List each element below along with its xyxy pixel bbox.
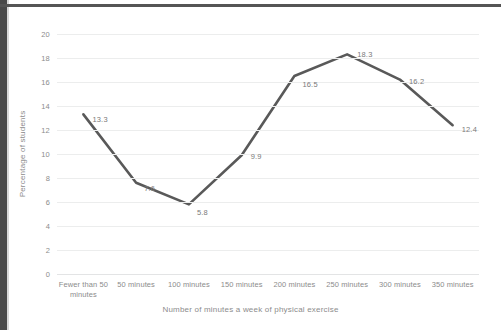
y-axis-tick-label: 6 bbox=[46, 198, 50, 207]
x-axis-tick-label: 250 minutes bbox=[318, 280, 376, 290]
gridline bbox=[57, 130, 479, 131]
gridline bbox=[57, 178, 479, 179]
chart-screenshot: Percentage of students 02468101214161820… bbox=[0, 0, 501, 330]
data-point-label: 18.3 bbox=[357, 50, 372, 59]
x-axis-tick-label: 200 minutes bbox=[265, 280, 323, 290]
y-axis-tick-label: 16 bbox=[41, 78, 50, 87]
x-axis-tick-label: 100 minutes bbox=[160, 280, 218, 290]
gridline bbox=[57, 202, 479, 203]
y-axis-tick-label: 4 bbox=[46, 222, 50, 231]
gridline bbox=[57, 154, 479, 155]
data-point-label: 9.9 bbox=[251, 152, 262, 161]
x-axis-tick-label: Fewer than 50 minutes bbox=[54, 280, 112, 300]
x-axis-tick-label: 150 minutes bbox=[213, 280, 271, 290]
line-chart: Percentage of students 02468101214161820… bbox=[0, 7, 501, 330]
y-axis-tick-label: 2 bbox=[46, 246, 50, 255]
gridline bbox=[57, 34, 479, 35]
y-axis-tick-label: 12 bbox=[41, 126, 50, 135]
y-axis-tick-label: 8 bbox=[46, 174, 50, 183]
y-axis-tick-label: 20 bbox=[41, 30, 50, 39]
data-point-label: 7.6 bbox=[144, 184, 155, 193]
y-axis-tick-label: 18 bbox=[41, 54, 50, 63]
gridline bbox=[57, 58, 479, 59]
y-axis-tick-label: 0 bbox=[46, 270, 50, 279]
x-axis-tick-label: 50 minutes bbox=[107, 280, 165, 290]
data-point-label: 5.8 bbox=[197, 208, 208, 217]
y-axis-tick-label: 10 bbox=[41, 150, 50, 159]
data-point-label: 12.4 bbox=[462, 125, 477, 134]
x-axis-tick-label: 350 minutes bbox=[424, 280, 482, 290]
gridline bbox=[57, 226, 479, 227]
gridline bbox=[57, 106, 479, 107]
gridline bbox=[57, 274, 479, 275]
y-axis-tick-label: 14 bbox=[41, 102, 50, 111]
gridline bbox=[57, 250, 479, 251]
plot-area: 02468101214161820Fewer than 50 minutes50… bbox=[57, 34, 479, 274]
data-point-label: 16.2 bbox=[409, 77, 424, 86]
x-axis-title: Number of minutes a week of physical exe… bbox=[0, 305, 501, 314]
data-point-label: 16.5 bbox=[302, 80, 317, 89]
y-axis-title: Percentage of students bbox=[18, 111, 27, 198]
x-axis-tick-label: 300 minutes bbox=[371, 280, 429, 290]
data-point-label: 13.3 bbox=[92, 115, 107, 124]
